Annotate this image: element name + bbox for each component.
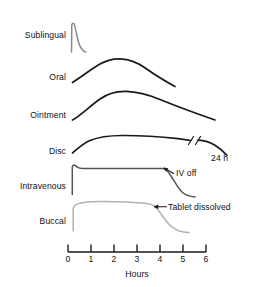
- annotation-iv-off: IV off: [176, 168, 197, 178]
- route-label-oral: Oral: [49, 72, 66, 82]
- x-tick-label-3: 3: [130, 254, 144, 264]
- drug-absorption-figure: Sublingual Oral Ointment Disc Intravenou…: [0, 0, 254, 287]
- x-axis-ticks: [68, 245, 206, 253]
- x-tick-label-0: 0: [61, 254, 75, 264]
- x-tick-label-4: 4: [153, 254, 167, 264]
- annotation-tablet-dissolved: Tablet dissolved: [168, 202, 231, 212]
- route-label-ointment: Ointment: [30, 110, 66, 120]
- x-tick-label-5: 5: [176, 254, 190, 264]
- x-axis-title: Hours: [107, 269, 167, 280]
- curve-oral: [73, 59, 176, 87]
- curves-canvas: [0, 0, 254, 287]
- route-label-sublingual: Sublingual: [25, 30, 66, 40]
- curve-sublingual: [72, 23, 86, 52]
- route-label-intravenous: Intravenous: [20, 181, 66, 191]
- route-label-buccal: Buccal: [40, 216, 66, 226]
- x-tick-label-6: 6: [199, 254, 213, 264]
- x-tick-label-1: 1: [84, 254, 98, 264]
- route-label-disc: Disc: [49, 146, 66, 156]
- curve-disc-before-break: [73, 135, 191, 153]
- x-tick-label-2: 2: [107, 254, 121, 264]
- annotation-24h: 24 h: [211, 153, 228, 163]
- curve-ointment: [73, 91, 216, 120]
